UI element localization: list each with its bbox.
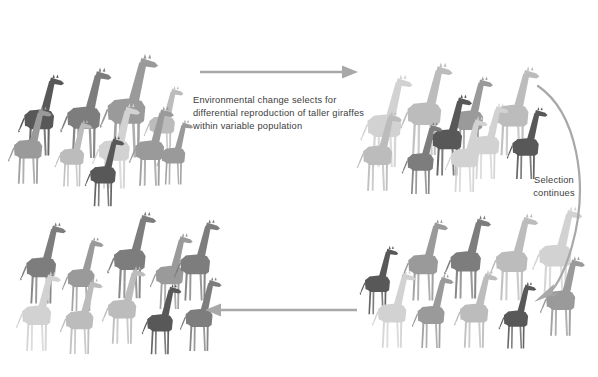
caption-environmental-change: Environmental change selects for differe… bbox=[193, 94, 368, 134]
panel-final-tall-population bbox=[0, 0, 598, 377]
evolution-diagram: Environmental change selects for differe… bbox=[0, 0, 598, 377]
arrow-left-bottom bbox=[205, 300, 357, 320]
arrow-right-top bbox=[200, 62, 360, 82]
caption-selection-continues: Selection continues bbox=[524, 174, 584, 200]
